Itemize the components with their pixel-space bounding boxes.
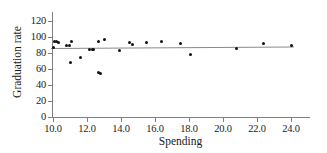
scatter-point bbox=[179, 42, 182, 45]
y-axis-tick bbox=[48, 53, 52, 54]
x-axis-tick bbox=[257, 118, 258, 122]
x-axis-tick-label: 16.0 bbox=[140, 123, 170, 134]
y-axis-tick-label: 80 bbox=[20, 48, 46, 59]
scatter-point bbox=[69, 61, 72, 64]
scatter-point bbox=[52, 46, 55, 49]
x-axis-tick bbox=[121, 118, 122, 122]
y-axis-tick bbox=[48, 101, 52, 102]
x-axis-tick-label: 20.0 bbox=[208, 123, 238, 134]
x-axis-tick bbox=[223, 118, 224, 122]
x-axis-tick-label: 22.0 bbox=[242, 123, 272, 134]
scatter-point bbox=[160, 40, 163, 43]
x-axis-line bbox=[52, 117, 310, 118]
y-axis-tick-label: 20 bbox=[20, 96, 46, 107]
plot-area bbox=[53, 13, 308, 117]
scatter-point bbox=[70, 40, 73, 43]
scatter-point bbox=[235, 47, 238, 50]
scatter-point bbox=[118, 49, 121, 52]
x-axis-tick-label: 24.0 bbox=[276, 123, 306, 134]
x-axis-tick bbox=[155, 118, 156, 122]
scatter-plot-figure: 020406080100120 Spending Graduation rate… bbox=[0, 0, 327, 153]
x-axis-tick-label: 18.0 bbox=[174, 123, 204, 134]
x-axis-tick bbox=[53, 118, 54, 122]
y-axis-tick bbox=[48, 85, 52, 86]
x-axis-tick-label: 12.0 bbox=[72, 123, 102, 134]
y-axis-tick-label: 100 bbox=[20, 32, 46, 43]
x-axis-tick bbox=[189, 118, 190, 122]
scatter-point bbox=[290, 44, 293, 47]
y-axis-tick bbox=[48, 117, 52, 118]
scatter-point bbox=[99, 72, 102, 75]
scatter-point bbox=[103, 38, 106, 41]
y-axis-tick bbox=[48, 69, 52, 70]
x-axis-title: Spending bbox=[53, 135, 308, 147]
x-axis-tick-label: 14.0 bbox=[106, 123, 136, 134]
y-axis-tick-label: 120 bbox=[20, 16, 46, 27]
y-axis-title: Graduation rate bbox=[11, 10, 23, 114]
x-axis-tick-label: 10.0 bbox=[38, 123, 68, 134]
y-axis-tick bbox=[48, 37, 52, 38]
y-axis-tick bbox=[48, 21, 52, 22]
y-axis-tick-label: 60 bbox=[20, 64, 46, 75]
y-axis-tick-label: 0 bbox=[20, 112, 46, 123]
x-axis-tick bbox=[291, 118, 292, 122]
scatter-point bbox=[79, 56, 82, 59]
y-axis-tick-label: 40 bbox=[20, 80, 46, 91]
x-axis-tick bbox=[87, 118, 88, 122]
scatter-point bbox=[57, 41, 60, 44]
